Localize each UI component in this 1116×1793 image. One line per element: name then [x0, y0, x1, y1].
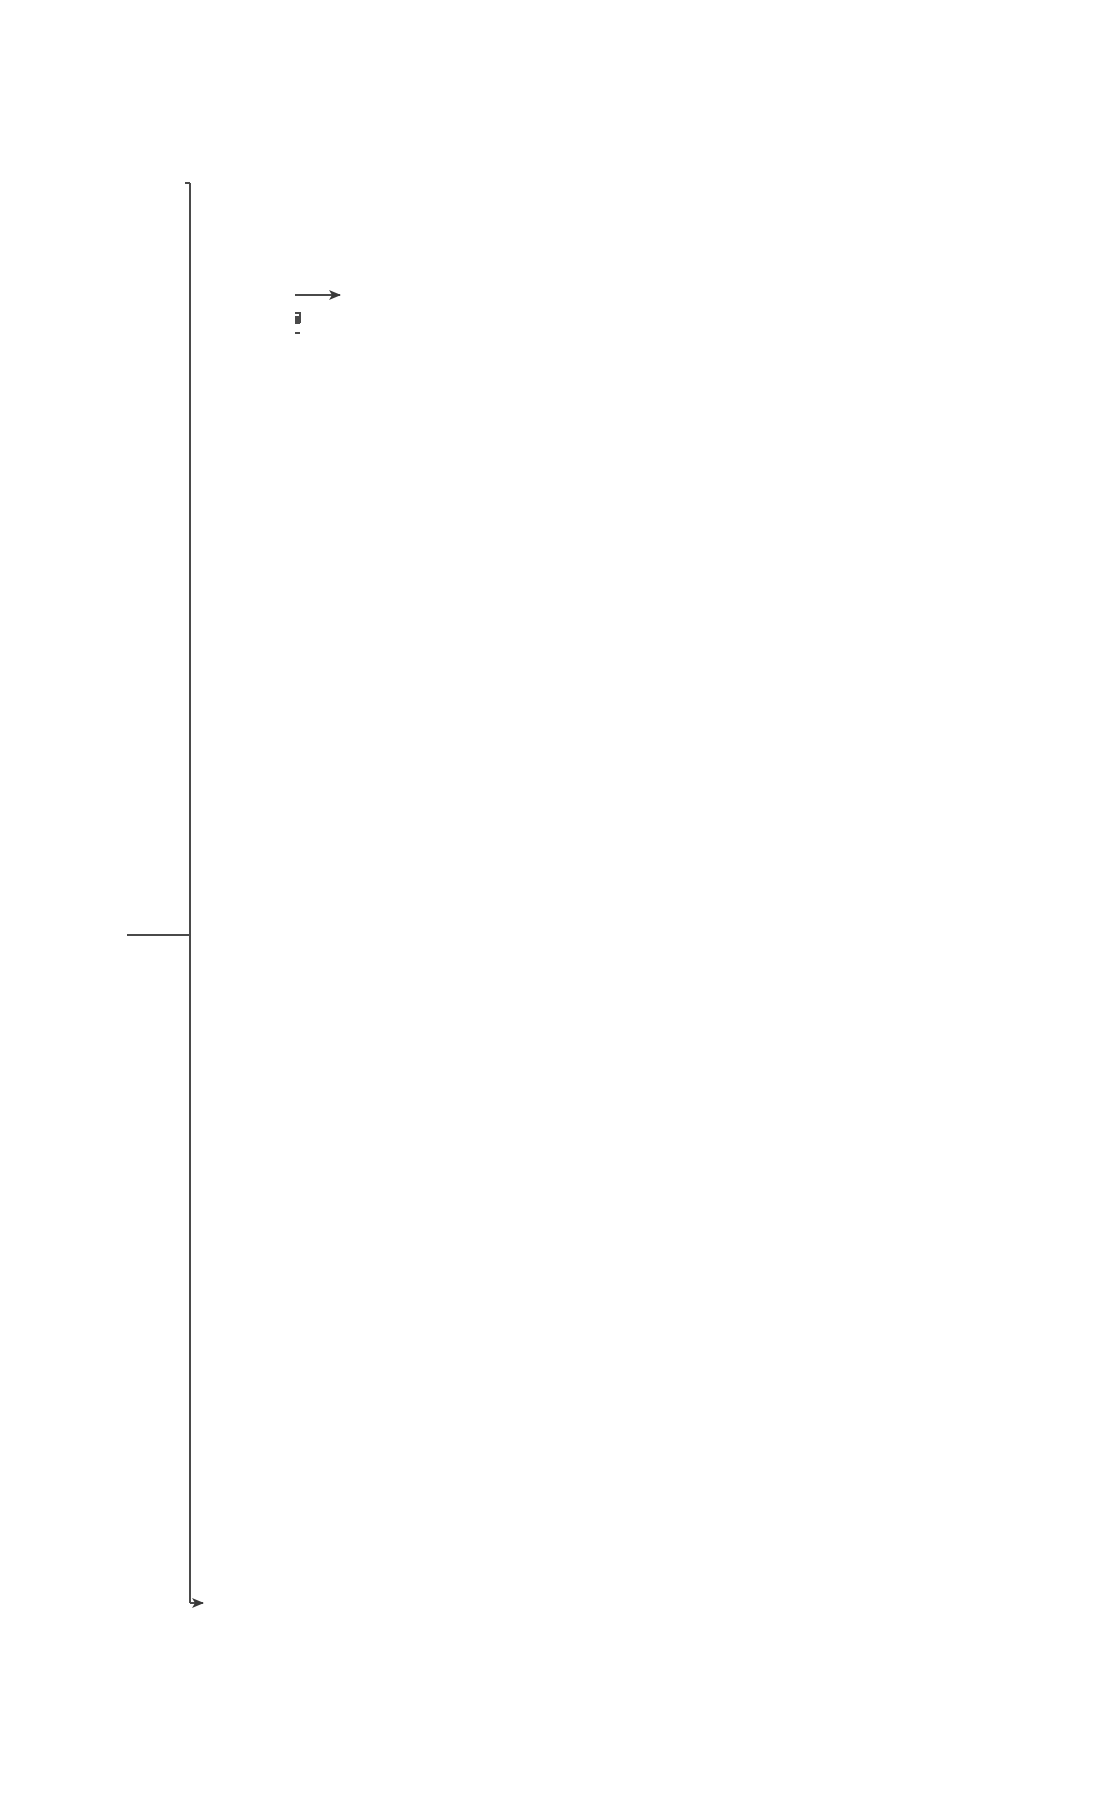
connector-lines — [0, 0, 1116, 1793]
flowchart-canvas — [0, 0, 1116, 1793]
